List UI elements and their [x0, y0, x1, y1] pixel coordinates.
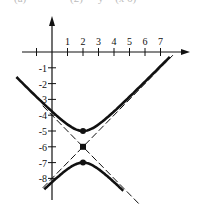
x-tick-label: 4 [112, 36, 117, 47]
vertex-point [80, 160, 86, 166]
x-tick-label: 1 [65, 36, 70, 47]
y-tick-label: -8 [39, 173, 47, 184]
y-tick-label: -6 [39, 142, 47, 153]
y-tick-label: -2 [39, 79, 47, 90]
y-tick-label: -7 [39, 158, 47, 169]
x-tick-label: 2 [81, 36, 86, 47]
y-tick-label: -5 [39, 126, 47, 137]
lower-branch-curve [44, 163, 123, 191]
y-tick-label: -4 [39, 110, 47, 121]
x-tick-label: 7 [158, 36, 163, 47]
x-tick-label: 3 [96, 36, 101, 47]
x-tick-label: 6 [143, 36, 148, 47]
vertex-point [80, 128, 86, 134]
y-axis-arrow-icon [49, 16, 55, 26]
x-axis-arrow-icon [181, 49, 190, 55]
center-point [80, 144, 86, 150]
y-tick-label: -1 [39, 63, 47, 74]
x-tick-label: 5 [127, 36, 132, 47]
hyperbola-plot: 1234567-1-2-3-4-5-6-7-8 [0, 0, 208, 204]
